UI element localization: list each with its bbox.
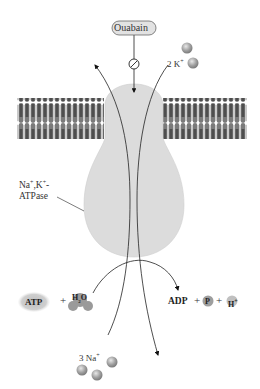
atpase-text: ATPase (19, 191, 48, 201)
k-count-text: 2 K (167, 59, 180, 69)
water-o: O (81, 293, 87, 302)
plus-1: + (60, 295, 66, 306)
plus-3: + (216, 295, 222, 306)
k-charge: + (180, 58, 183, 64)
plus-text: + (194, 294, 200, 306)
adp-label: ADP (168, 296, 188, 307)
na-ion (77, 365, 88, 376)
water-label: H2O (72, 292, 87, 307)
hydrolysis-arrow (93, 260, 178, 293)
plus-text: + (216, 294, 222, 306)
plus-2: + (194, 295, 200, 306)
membrane-left (17, 98, 104, 139)
na-text: Na (19, 180, 30, 190)
plus-text: + (60, 294, 66, 306)
k-ion (182, 43, 193, 54)
na-ions-label: 3 Na+ (79, 350, 100, 364)
ouabain-text: Ouabain (114, 22, 148, 33)
atpase-pointer (57, 197, 84, 211)
phosphate-label: P (205, 296, 210, 307)
atp-label: ATP (25, 297, 42, 308)
enzyme-label: Na+,K+- ATPase (19, 177, 49, 202)
na-charge-2: + (96, 352, 99, 358)
k-ion (188, 58, 199, 69)
na-ion (92, 370, 103, 381)
hyphen: - (46, 180, 49, 190)
na-ion (107, 357, 118, 368)
na-count-text: 3 Na (79, 353, 96, 363)
proton-label: H+ (228, 296, 238, 310)
h-charge: + (234, 298, 237, 304)
k-ions-label: 2 K+ (167, 56, 184, 70)
adp-text: ADP (168, 296, 188, 306)
atp-text: ATP (25, 297, 42, 307)
ouabain-label: Ouabain (114, 22, 148, 33)
p-text: P (205, 297, 210, 306)
membrane-right (163, 98, 247, 139)
k-text: ,K (33, 180, 42, 190)
